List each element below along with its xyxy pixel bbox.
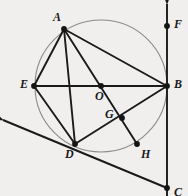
point-E	[31, 83, 37, 89]
point-label-C: C	[174, 186, 182, 196]
rays-group	[3, 4, 167, 196]
point-label-A: A	[53, 11, 61, 23]
point-label-D: D	[65, 148, 74, 160]
point-A	[61, 26, 67, 32]
point-C	[164, 185, 170, 191]
segment-AB	[64, 29, 167, 86]
point-label-H: H	[141, 148, 150, 160]
point-label-F: F	[174, 18, 182, 30]
point-label-O: O	[95, 90, 104, 102]
geometry-canvas	[0, 0, 188, 196]
point-G	[119, 115, 125, 121]
point-B	[164, 83, 170, 89]
segment-AE	[34, 29, 64, 86]
geometry-figure: AEBODGHFC	[0, 0, 188, 196]
point-label-E: E	[20, 78, 28, 90]
point-label-G: G	[105, 108, 114, 120]
point-F	[164, 23, 170, 29]
point-H	[134, 141, 140, 147]
segment-DB	[75, 86, 167, 144]
point-label-B: B	[174, 78, 182, 90]
